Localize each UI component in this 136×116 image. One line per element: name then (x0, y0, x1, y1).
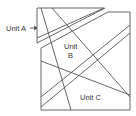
unit-c-label: Unit C (80, 93, 101, 102)
lower-dike-edge-top (41, 25, 130, 97)
cross-section-diagram: Unit A Unit B Unit C (0, 0, 136, 116)
upper-dike-edge-top (37, 8, 105, 43)
unit-a-label: Unit A (6, 24, 26, 33)
unit-c-boundary (41, 61, 130, 95)
unit-b-label-line1: Unit (64, 42, 78, 51)
unit-b-label-line2: B (68, 51, 73, 60)
